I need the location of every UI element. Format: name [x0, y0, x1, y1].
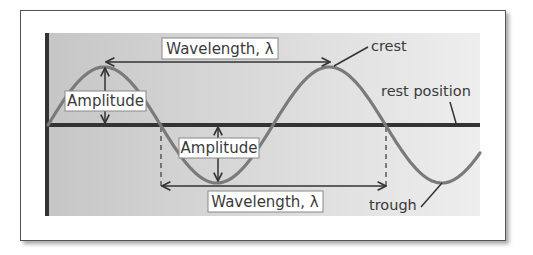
- wavelength-top-text: Wavelength, λ: [166, 40, 274, 58]
- label-amplitude-left: Amplitude: [65, 91, 146, 111]
- trough-label: trough: [369, 197, 417, 213]
- amplitude-left-text: Amplitude: [67, 92, 144, 110]
- label-wavelength-top: Wavelength, λ: [162, 38, 278, 59]
- label-amplitude-middle: Amplitude: [179, 138, 259, 158]
- wavelength-bottom-text: Wavelength, λ: [211, 193, 319, 211]
- rest-position-label: rest position: [381, 83, 471, 99]
- amplitude-middle-text: Amplitude: [181, 139, 258, 157]
- crest-label: crest: [371, 38, 407, 54]
- label-wavelength-bottom: Wavelength, λ: [208, 191, 323, 212]
- wave-diagram: Wavelength, λ Wavelength, λ Amplitude Am…: [0, 0, 533, 255]
